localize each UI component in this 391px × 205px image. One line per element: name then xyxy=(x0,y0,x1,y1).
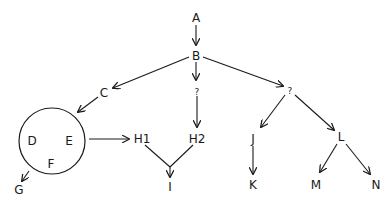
node-b: B xyxy=(192,49,200,63)
node-e: E xyxy=(65,134,73,148)
node-l: L xyxy=(338,130,345,144)
edge-h1-i xyxy=(145,145,170,167)
edge-b-q2 xyxy=(203,57,283,86)
edge-h2-i xyxy=(170,145,193,167)
node-k: K xyxy=(249,178,258,192)
tree-diagram: A B C ? ? D E F G H1 H2 I J K L M N xyxy=(0,0,391,205)
node-j: J xyxy=(250,132,255,146)
node-q1: ? xyxy=(195,87,200,97)
node-a: A xyxy=(192,11,201,25)
node-h1: H1 xyxy=(134,132,151,146)
node-i: I xyxy=(168,180,172,194)
node-g: G xyxy=(14,183,23,197)
edge-l-m xyxy=(320,144,337,172)
edge-circle-g xyxy=(22,171,29,181)
edge-l-n xyxy=(346,144,370,174)
edge-q2-j xyxy=(261,95,285,127)
edge-q2-l xyxy=(295,95,334,130)
node-h2: H2 xyxy=(189,132,206,146)
node-n: N xyxy=(372,178,381,192)
edge-c-circle xyxy=(78,97,98,112)
edge-b-c xyxy=(113,57,189,88)
node-m: M xyxy=(311,178,321,192)
node-f: F xyxy=(48,157,55,171)
node-c: C xyxy=(100,86,108,100)
node-q2: ? xyxy=(288,86,293,96)
node-d: D xyxy=(27,134,36,148)
